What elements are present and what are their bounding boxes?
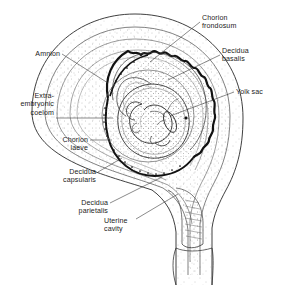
label-decidua-basalis: Decidua basalis (222, 47, 249, 64)
label-extra-embryonic-coelom: Extra- embryonic coelom (0, 92, 54, 117)
label-amnion: Amnion (0, 50, 60, 58)
label-decidua-parietalis: Decidua parietalis (44, 199, 108, 216)
anatomical-diagram-page: Chorion frondosum Decidua basalis Yolk s… (0, 0, 281, 287)
label-uterine-cavity: Uterine cavity (104, 217, 128, 234)
label-chorion-frondosum: Chorion frondosum (202, 14, 236, 31)
label-yolk-sac: Yolk sac (236, 88, 263, 96)
label-chorion-laeve: Chorion laeve (26, 136, 88, 153)
label-decidua-capsularis: Decidua capsularis (30, 168, 96, 185)
